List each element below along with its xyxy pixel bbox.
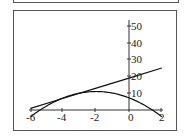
x-tick-label: -4 <box>57 111 67 123</box>
x-tick-label: 0 <box>128 111 134 123</box>
y-tick-label: 10 <box>131 87 143 99</box>
y-tick-label: 50 <box>131 20 143 32</box>
y-tick-label: 40 <box>131 37 143 49</box>
x-tick-label: 2 <box>159 111 165 123</box>
y-tick-label: 30 <box>131 53 143 65</box>
line-series <box>31 68 162 108</box>
plot-area: -6 -4 -2 0 2 10 20 30 40 50 <box>0 0 185 136</box>
x-tick-label: -2 <box>90 111 99 123</box>
